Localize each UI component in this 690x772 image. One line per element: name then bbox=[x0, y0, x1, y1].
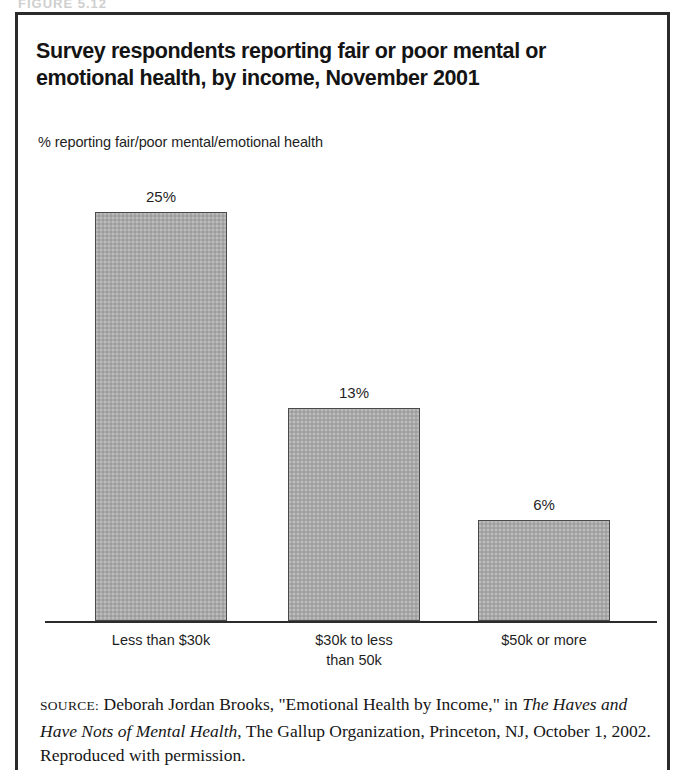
x-axis-category-labels: Less than $30k $30k to less than 50k $50… bbox=[45, 630, 657, 690]
x-axis-label-2-line-0: $50k or more bbox=[501, 632, 586, 648]
source-note: SOURCE: Deborah Jordan Brooks, "Emotiona… bbox=[40, 692, 654, 768]
chart-subtitle: % reporting fair/poor mental/emotional h… bbox=[38, 134, 323, 150]
source-label: SOURCE: bbox=[40, 698, 99, 713]
x-axis-line bbox=[45, 621, 657, 623]
bar-group-1: 13% bbox=[288, 408, 420, 621]
figure-title: Survey respondents reporting fair or poo… bbox=[36, 38, 646, 92]
x-axis-label-0: Less than $30k bbox=[81, 630, 241, 650]
x-axis-label-1-line-0: $30k to less bbox=[315, 632, 392, 648]
x-axis-label-1-line-1: than 50k bbox=[326, 652, 382, 668]
bar-group-2: 6% bbox=[478, 520, 610, 621]
bar-chart-plot-area: 25% 13% 6% bbox=[45, 165, 657, 623]
bar-2[interactable] bbox=[478, 520, 610, 621]
bar-value-label-1: 13% bbox=[288, 384, 420, 401]
bar-value-label-2: 6% bbox=[478, 496, 610, 513]
bar-group-0: 25% bbox=[95, 212, 227, 621]
x-axis-label-2: $50k or more bbox=[464, 630, 624, 650]
bar-1[interactable] bbox=[288, 408, 420, 621]
bar-0[interactable] bbox=[95, 212, 227, 621]
x-axis-label-0-line-0: Less than $30k bbox=[112, 632, 210, 648]
page-running-head: FIGURE 5.12 bbox=[18, 0, 318, 10]
bar-value-label-0: 25% bbox=[95, 188, 227, 205]
source-text-part1: Deborah Jordan Brooks, "Emotional Health… bbox=[99, 694, 522, 714]
x-axis-label-1: $30k to less than 50k bbox=[274, 630, 434, 670]
